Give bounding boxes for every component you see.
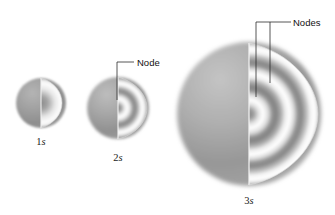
orbital-label-3s: 3s	[244, 195, 253, 206]
orbital-label-1s: 1s	[36, 136, 45, 147]
figure-canvas: Node Nodes 1s 2s 3s	[0, 0, 335, 215]
orbital-label-1s-sub: s	[42, 136, 46, 147]
orbital-label-2s: 2s	[113, 152, 122, 163]
nodes-3s-label: Nodes	[293, 17, 321, 28]
orbital-label-2s-sub: s	[119, 152, 123, 163]
orbital-label-3s-sub: s	[250, 195, 254, 206]
orbital-3s	[177, 42, 321, 186]
orbital-diagram-svg: Node Nodes 1s 2s 3s	[0, 0, 335, 215]
node-2s-label: Node	[137, 57, 160, 68]
orbital-2s	[87, 77, 149, 139]
orbital-1s	[16, 78, 66, 128]
